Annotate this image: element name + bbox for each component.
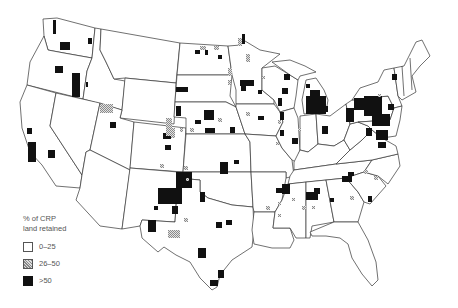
legend-swatch-hatched bbox=[23, 259, 33, 269]
legend-title: % of CRP land retained bbox=[23, 214, 66, 234]
legend-label-low: 0–25 bbox=[39, 242, 56, 252]
state-new-england bbox=[394, 40, 430, 100]
state-wyoming bbox=[120, 78, 176, 124]
legend-item-medium: 26–50 bbox=[23, 257, 66, 270]
state-montana bbox=[100, 29, 180, 83]
legend-title-line2: land retained bbox=[23, 224, 66, 234]
state-boundaries bbox=[20, 18, 430, 290]
state-colorado bbox=[130, 122, 186, 172]
legend-title-line1: % of CRP bbox=[23, 214, 66, 224]
legend-item-low: 0–25 bbox=[23, 240, 66, 253]
legend-swatch-black bbox=[23, 276, 33, 286]
map-legend: % of CRP land retained 0–25 26–50 >50 bbox=[23, 214, 66, 291]
legend-item-high: >50 bbox=[23, 274, 66, 287]
legend-swatch-white bbox=[23, 242, 33, 252]
state-kansas bbox=[183, 134, 251, 172]
state-florida bbox=[310, 222, 378, 286]
us-map bbox=[0, 0, 458, 308]
legend-label-high: >50 bbox=[39, 276, 52, 286]
legend-label-medium: 26–50 bbox=[39, 259, 60, 269]
